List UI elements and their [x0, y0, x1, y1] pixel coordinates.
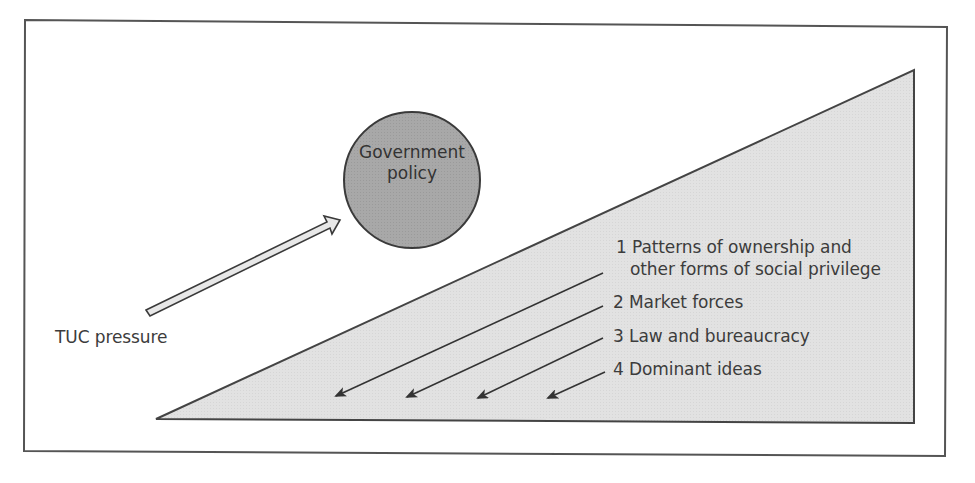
tuc-pressure-label: TUC pressure	[55, 326, 167, 348]
force-4-label: 4 Dominant ideas	[613, 358, 762, 380]
government-policy-line2: policy	[344, 163, 480, 184]
tuc-pressure-arrow	[146, 216, 340, 316]
government-policy-label: Government policy	[344, 142, 480, 184]
government-policy-line1: Government	[344, 142, 480, 163]
force-1-label-line1: 1 Patterns of ownership and	[616, 236, 852, 258]
force-2-label: 2 Market forces	[613, 291, 743, 313]
force-3-label: 3 Law and bureaucracy	[613, 325, 810, 347]
force-1-label-line2: other forms of social privilege	[630, 258, 881, 280]
